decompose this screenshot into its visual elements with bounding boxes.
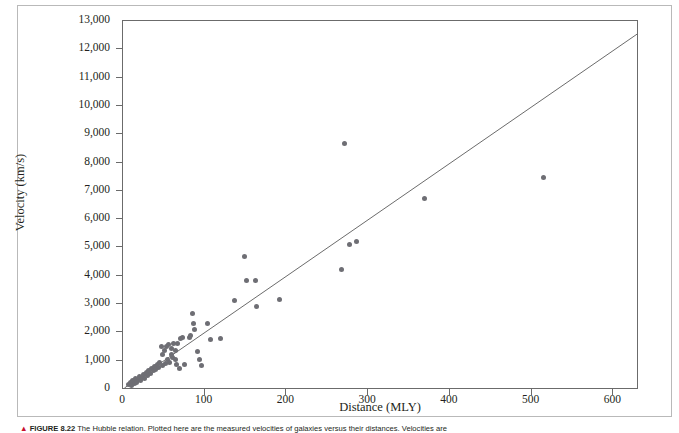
x-tick-mark xyxy=(612,389,613,395)
x-axis-line xyxy=(122,388,638,389)
data-point xyxy=(182,362,187,367)
y-tick-label: 4,000 xyxy=(48,269,110,281)
data-point xyxy=(197,357,202,362)
y-tick-label: 6,000 xyxy=(48,212,110,224)
y-tick-label: 2,000 xyxy=(48,325,110,337)
y-tick-label: 1,000 xyxy=(48,354,110,366)
caption-marker: ▲ xyxy=(20,424,28,433)
x-tick-mark xyxy=(531,389,532,395)
figure-container: 01,0002,0003,0004,0005,0006,0007,0008,00… xyxy=(0,0,679,433)
data-point xyxy=(167,360,172,365)
y-tick-label: 11,000 xyxy=(48,71,110,83)
x-tick-mark xyxy=(204,389,205,395)
x-axis-title: Distance (MLY) xyxy=(122,400,638,415)
y-tick-label: 7,000 xyxy=(48,184,110,196)
y-tick-label: 3,000 xyxy=(48,297,110,309)
caption-number: FIGURE 8.22 xyxy=(30,424,76,433)
y-axis-title: Velocity (km/s) xyxy=(13,113,28,273)
y-tick-label: 13,000 xyxy=(48,14,110,26)
plot-border-right xyxy=(637,20,638,389)
data-point xyxy=(180,335,185,340)
x-tick-mark xyxy=(449,389,450,395)
data-point xyxy=(244,278,249,283)
y-tick-label: 0 xyxy=(48,382,110,394)
data-point xyxy=(242,254,247,259)
data-point xyxy=(192,327,197,332)
data-point xyxy=(205,321,210,326)
x-tick-mark xyxy=(367,389,368,395)
y-tick-label: 8,000 xyxy=(48,156,110,168)
data-point xyxy=(177,366,182,371)
trend-line xyxy=(122,20,637,388)
y-tick-label: 10,000 xyxy=(48,99,110,111)
y-tick-label: 5,000 xyxy=(48,240,110,252)
y-tick-label: 9,000 xyxy=(48,127,110,139)
data-point xyxy=(173,357,178,362)
data-point xyxy=(339,267,344,272)
scatter-plot-area xyxy=(122,20,637,388)
data-point xyxy=(195,349,200,354)
y-tick-label: 12,000 xyxy=(48,42,110,54)
figure-caption: ▲ FIGURE 8.22 The Hubble relation. Plott… xyxy=(20,424,670,433)
data-point xyxy=(347,242,352,247)
data-point xyxy=(253,278,258,283)
x-tick-mark xyxy=(285,389,286,395)
caption-text: The Hubble relation. Plotted here are th… xyxy=(77,424,447,433)
